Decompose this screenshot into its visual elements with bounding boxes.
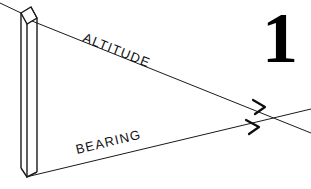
line-drawing: ALTITUDE BEARING 1 (0, 0, 311, 189)
figure-number: 1 (262, 0, 298, 78)
figure-canvas: ALTITUDE BEARING 1 (0, 0, 311, 189)
